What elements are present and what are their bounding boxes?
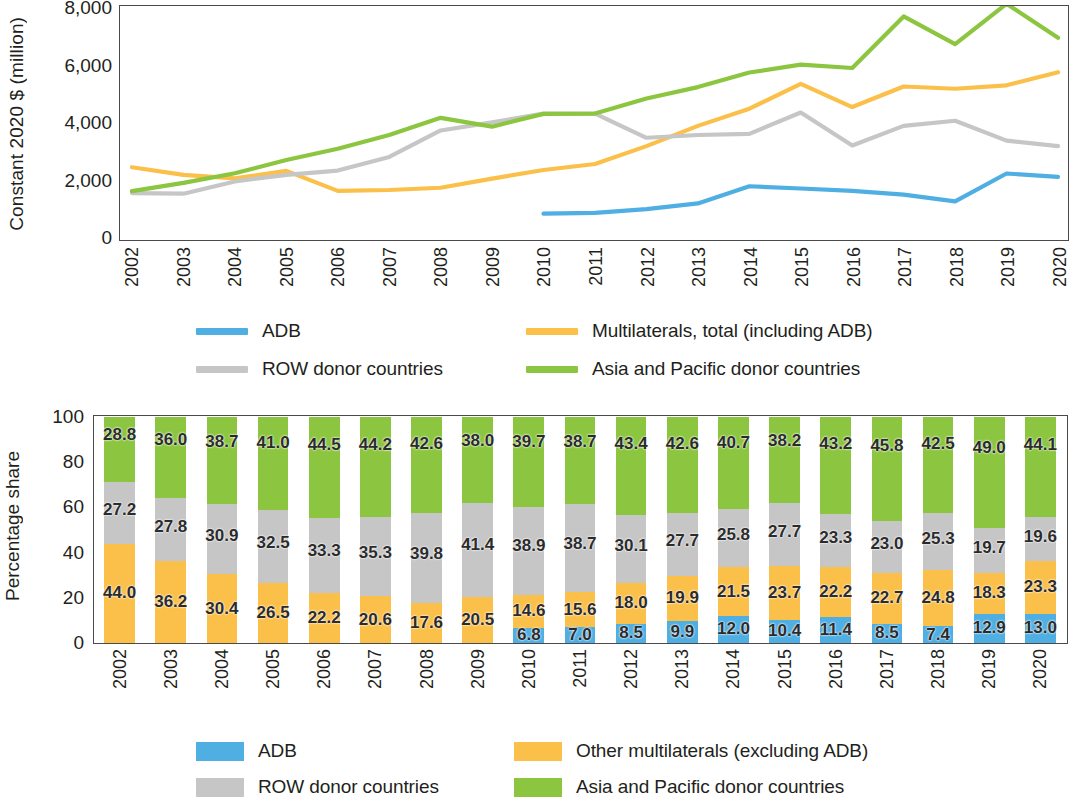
bar-segment — [309, 417, 340, 518]
line-legend-item[interactable]: ADB — [196, 320, 526, 342]
line-chart-x-tick: 2004 — [225, 247, 246, 287]
line-chart-x-tick: 2016 — [844, 247, 865, 287]
bar-segment-label: 44.1 — [1006, 435, 1074, 455]
line-swatch — [526, 366, 578, 373]
bar-chart-x-tick: 2015 — [775, 649, 796, 689]
bar-chart-x-tick: 2017 — [877, 649, 898, 689]
bar-chart-x-tick: 2013 — [672, 649, 693, 689]
line-chart-y-tick: 0 — [101, 227, 112, 249]
bar-chart-bars: 44.027.228.836.227.836.030.430.938.726.5… — [94, 416, 1067, 643]
bar-segment — [667, 417, 698, 513]
box-swatch — [514, 778, 562, 797]
box-swatch — [196, 778, 244, 797]
bar-legend-label: Other multilaterals (excluding ADB) — [576, 740, 868, 762]
bar-chart-x-tick: 2004 — [212, 649, 233, 689]
bar-segment-label: 13.0 — [1006, 618, 1074, 638]
line-legend-item[interactable]: Asia and Pacific donor countries — [526, 358, 872, 380]
bar-segment — [207, 417, 238, 504]
line-legend-label: ADB — [262, 320, 301, 342]
line-chart-x-tick: 2005 — [277, 247, 298, 287]
bar-chart-x-tick: 2019 — [979, 649, 1000, 689]
line-legend-item[interactable]: ROW donor countries — [196, 358, 526, 380]
bar-legend-label: ROW donor countries — [258, 776, 439, 798]
line-chart-y-tick: 8,000 — [64, 0, 112, 19]
line-chart-x-tick: 2007 — [380, 247, 401, 287]
bar-legend-item[interactable]: ADB — [196, 740, 514, 762]
line-legend-label: Multilaterals, total (including ADB) — [592, 320, 872, 342]
bar-chart-x-tick: 2006 — [314, 649, 335, 689]
bar-legend-label: Asia and Pacific donor countries — [576, 776, 844, 798]
line-chart-y-tick: 2,000 — [64, 170, 112, 192]
bar-segment — [769, 417, 800, 503]
bar-chart-legend: ADBOther multilaterals (excluding ADB)RO… — [196, 740, 868, 798]
line-chart: Constant 2020 $ (million) 02,0004,0006,0… — [0, 0, 1078, 315]
bar-chart-x-tick: 2016 — [826, 649, 847, 689]
bar-chart-x-tick: 2010 — [519, 649, 540, 689]
bar-segment — [616, 417, 647, 515]
line-chart-x-tick: 2013 — [689, 247, 710, 287]
box-swatch — [514, 742, 562, 761]
bar-chart-x-tick: 2018 — [928, 649, 949, 689]
bar-segment — [1025, 417, 1056, 517]
bar-legend-label: ADB — [258, 740, 297, 762]
line-series-row-donor-countries — [132, 112, 1058, 193]
bar-chart-y-tick: 100 — [52, 406, 84, 428]
bar-chart-x-tick: 2002 — [110, 649, 131, 689]
bar-segment-label: 19.6 — [1006, 527, 1074, 547]
line-chart-x-tick: 2011 — [586, 247, 607, 286]
bar-chart: Percentage share 020406080100 44.027.228… — [0, 405, 1078, 735]
line-chart-y-axis-title-text: Constant 2020 $ (million) — [6, 17, 28, 231]
bar-segment — [462, 417, 493, 503]
bar-chart-x-tick: 2011 — [570, 649, 591, 688]
box-swatch — [196, 742, 244, 761]
line-swatch — [196, 328, 248, 335]
line-chart-x-tick: 2020 — [1050, 247, 1071, 287]
line-series-multilaterals-total-including-adb — [132, 72, 1058, 191]
bar-chart-x-tick: 2020 — [1030, 649, 1051, 689]
bar-segment — [513, 417, 544, 507]
line-chart-y-axis-ticks: 02,0004,0006,0008,000 — [34, 0, 118, 245]
line-legend-item[interactable]: Multilaterals, total (including ADB) — [526, 320, 872, 342]
bar-segment — [872, 417, 903, 521]
bar-segment-label: 23.3 — [1006, 577, 1074, 597]
line-chart-y-tick: 6,000 — [64, 55, 112, 77]
line-chart-plot-area — [119, 5, 1069, 241]
bar-chart-x-tick: 2012 — [621, 649, 642, 689]
bar-chart-plot-area: 44.027.228.836.227.836.030.430.938.726.5… — [93, 415, 1068, 644]
line-legend-label: Asia and Pacific donor countries — [592, 358, 860, 380]
bar-segment — [360, 417, 391, 517]
bar-segment — [411, 417, 442, 513]
line-chart-x-tick: 2009 — [483, 247, 504, 287]
bar-segment — [718, 417, 749, 509]
line-chart-x-tick: 2008 — [431, 247, 452, 287]
bar-chart-y-axis-title-text: Percentage share — [2, 451, 24, 601]
line-chart-legend: ADBMultilaterals, total (including ADB)R… — [196, 320, 872, 380]
line-chart-x-axis-labels: 2002200320042005200620072008200920102011… — [119, 247, 1069, 311]
bar-chart-y-tick: 60 — [63, 496, 84, 518]
line-swatch — [196, 366, 248, 373]
line-chart-x-tick: 2012 — [638, 247, 659, 287]
bar-chart-x-tick: 2008 — [417, 649, 438, 689]
line-chart-x-tick: 2002 — [122, 247, 143, 287]
bar-legend-item[interactable]: Other multilaterals (excluding ADB) — [514, 740, 868, 762]
bar-column[interactable] — [104, 416, 135, 643]
bar-chart-y-axis-title: Percentage share — [2, 411, 24, 641]
line-legend-label: ROW donor countries — [262, 358, 443, 380]
line-chart-x-tick: 2019 — [998, 247, 1019, 287]
bar-segment — [258, 417, 289, 510]
bar-chart-x-tick: 2005 — [263, 649, 284, 689]
line-swatch — [526, 328, 578, 335]
bar-chart-x-axis-labels: 2002200320042005200620072008200920102011… — [93, 649, 1068, 719]
bar-segment — [923, 417, 954, 513]
bar-segment — [565, 417, 596, 504]
bar-legend-item[interactable]: ROW donor countries — [196, 776, 514, 798]
line-chart-x-tick: 2014 — [741, 247, 762, 287]
line-chart-y-tick: 4,000 — [64, 112, 112, 134]
bar-chart-y-tick: 0 — [73, 632, 84, 654]
line-chart-y-axis-title: Constant 2020 $ (million) — [6, 4, 28, 244]
bar-legend-item[interactable]: Asia and Pacific donor countries — [514, 776, 868, 798]
line-series-adb — [544, 173, 1059, 213]
bar-chart-y-tick: 40 — [63, 542, 84, 564]
line-chart-svg — [120, 6, 1068, 240]
